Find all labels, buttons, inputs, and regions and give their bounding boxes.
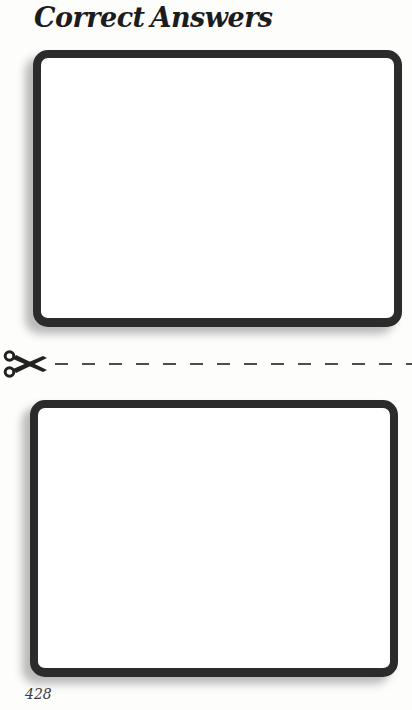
scissors-icon bbox=[3, 348, 49, 380]
dashed-cut-line bbox=[55, 363, 412, 365]
document-page: Correct Answers 428 bbox=[0, 0, 412, 710]
cut-line bbox=[0, 346, 412, 382]
answer-box-bottom bbox=[30, 400, 398, 677]
page-number: 428 bbox=[25, 686, 52, 702]
answer-box-top bbox=[33, 50, 402, 327]
page-title: Correct Answers bbox=[34, 2, 273, 33]
